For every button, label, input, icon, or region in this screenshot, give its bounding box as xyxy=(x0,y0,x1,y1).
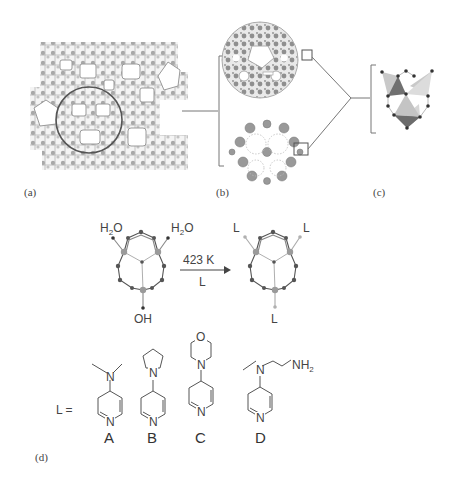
ligand-b-label: B xyxy=(147,429,157,446)
bracket-b xyxy=(219,56,224,166)
label-h2o-left: H2O xyxy=(100,221,122,237)
metal-atom xyxy=(140,287,146,293)
cluster-right: L L L xyxy=(233,221,310,326)
label-l-left: L xyxy=(233,221,240,235)
ligand-c-oxygen: O xyxy=(196,330,205,344)
cluster-left: H2O H2O OH xyxy=(100,221,193,326)
label-l-right: L xyxy=(303,221,310,235)
ligand-d-nh2: NH2 xyxy=(292,358,314,374)
panel-b-cage-bottom xyxy=(229,120,308,185)
arrow-condition-ligand: L xyxy=(199,275,206,289)
label-h2o-right: H2O xyxy=(171,221,193,237)
bracket-c xyxy=(371,65,376,133)
panel-label-a: (a) xyxy=(24,186,36,198)
ligand-d-amine-n: N xyxy=(256,363,265,377)
panel-label-d: (d) xyxy=(35,451,48,463)
ligand-c-amine-n: N xyxy=(197,358,206,372)
ligand-a-pyridine-n: N xyxy=(106,415,115,429)
ligand-d-label: D xyxy=(255,429,266,446)
ligand-a-amine-n: N xyxy=(106,370,115,384)
panel-a-framework xyxy=(30,42,188,170)
ligand-b-pyridine-n: N xyxy=(149,415,158,429)
ligand-b-amine-n: N xyxy=(149,366,158,380)
ligand-d-structure xyxy=(243,360,291,417)
ligand-a-label: A xyxy=(104,429,114,446)
ligand-c-label: C xyxy=(195,429,206,446)
ligand-c-structure xyxy=(189,337,213,411)
selection-box-top xyxy=(302,50,312,60)
figure-canvas: H2O H2O OH 423 K L xyxy=(0,0,454,481)
reaction-arrow: 423 K L xyxy=(180,253,231,289)
metal-atom xyxy=(155,249,161,255)
line-top-to-c xyxy=(312,57,351,98)
ligand-b-structure xyxy=(141,349,165,421)
label-l-bottom: L xyxy=(271,312,278,326)
ligand-d-pyridine-n: N xyxy=(256,411,265,425)
metal-atom xyxy=(121,249,127,255)
panel-c-trimer xyxy=(380,69,434,130)
panel-label-b: (b) xyxy=(216,186,229,198)
label-oh: OH xyxy=(134,312,152,326)
ligand-c-pyridine-n: N xyxy=(197,405,206,419)
ligand-prefix: L = xyxy=(56,403,73,417)
panel-label-c: (c) xyxy=(373,186,385,198)
line-bottom-to-c xyxy=(308,98,351,149)
arrow-condition-temp: 423 K xyxy=(183,253,214,267)
panel-b-cage-top xyxy=(222,22,312,98)
